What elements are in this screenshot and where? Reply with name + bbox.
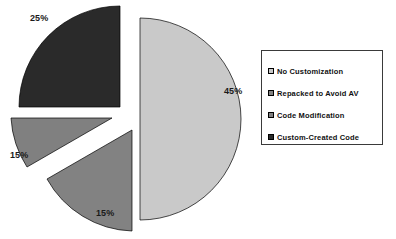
pie-slice-label-custom-created-code: 25% [30, 13, 48, 23]
pie-slice-label-no-customization: 45% [224, 86, 242, 96]
legend-item-custom-created-code[interactable]: Custom-Created Code [262, 126, 382, 148]
legend-swatch-icon [268, 134, 274, 140]
legend-item-label: Custom-Created Code [277, 133, 359, 142]
legend-item-label: No Customization [277, 67, 343, 76]
legend-item-repacked-to-avoid-av[interactable]: Repacked to Avoid AV [262, 82, 382, 104]
pie-chart: 45% 15% 15% 25% No Customization Repacke… [0, 0, 396, 239]
legend-swatch-icon [268, 112, 274, 118]
legend-item-label: Repacked to Avoid AV [277, 89, 359, 98]
pie-slice-no-customization[interactable] [140, 18, 241, 220]
legend-item-code-modification[interactable]: Code Modification [262, 104, 382, 126]
chart-legend: No Customization Repacked to Avoid AV Co… [261, 50, 383, 145]
legend-item-no-customization[interactable]: No Customization [262, 60, 382, 82]
legend-swatch-icon [268, 68, 274, 74]
legend-item-label: Code Modification [277, 111, 345, 120]
pie-slice-label-code-modification: 15% [10, 150, 28, 160]
pie-slice-label-repacked-to-avoid-av: 15% [96, 208, 114, 218]
legend-swatch-icon [268, 90, 274, 96]
pie-chart-canvas [0, 0, 260, 239]
